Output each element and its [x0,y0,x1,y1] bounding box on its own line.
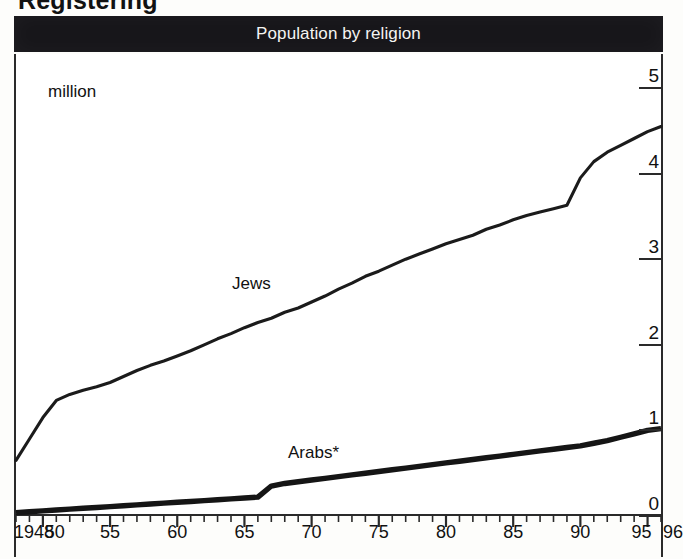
y-tick-mark [639,173,661,175]
x-tick-label: 96 [663,522,683,543]
y-tick-mark [639,429,661,431]
x-tick-label: 55 [100,522,120,543]
y-tick-label: 3 [635,236,659,258]
x-tick-label: 90 [570,522,590,543]
x-tick-label: 50 [45,522,65,543]
x-tick-label: 95 [632,522,652,543]
y-tick-mark [639,515,661,517]
y-tick-label: 5 [635,65,659,87]
y-tick-mark [639,258,661,260]
x-tick-label: 60 [167,522,187,543]
y-tick-label: 0 [635,493,659,515]
series-line-jews [16,127,661,461]
series-line-arabs [16,429,661,513]
x-tick-label: 65 [234,522,254,543]
y-tick-label: 1 [635,407,659,429]
y-tick-label: 2 [635,322,659,344]
x-tick-label: 75 [369,522,389,543]
x-tick-label: 85 [503,522,523,543]
y-tick-mark [639,87,661,89]
x-tick-label: 70 [302,522,322,543]
y-tick-mark [639,344,661,346]
y-tick-label: 4 [635,151,659,173]
x-tick-label: 80 [436,522,456,543]
